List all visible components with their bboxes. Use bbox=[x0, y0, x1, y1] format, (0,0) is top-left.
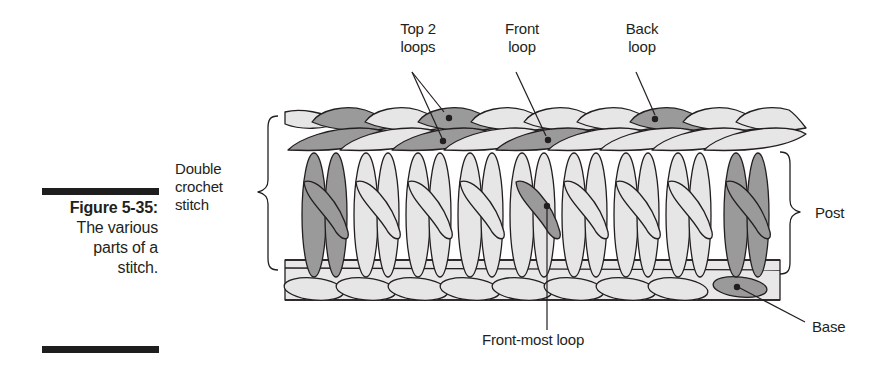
label-line: loop bbox=[612, 38, 672, 56]
label-line: Front bbox=[492, 20, 552, 38]
label-post: Post bbox=[815, 204, 844, 222]
label-double-crochet-stitch: Double crochet stitch bbox=[175, 160, 255, 214]
label-top-two-loops: Top 2 loops bbox=[388, 20, 448, 56]
stitch-posts bbox=[302, 153, 770, 277]
right-brace bbox=[780, 152, 800, 274]
top-chain-back bbox=[285, 108, 806, 131]
label-back-loop: Back loop bbox=[612, 20, 672, 56]
label-line: Double bbox=[175, 160, 255, 178]
label-front-loop: Front loop bbox=[492, 20, 552, 56]
label-line: Top 2 bbox=[388, 20, 448, 38]
label-line: loop bbox=[492, 38, 552, 56]
label-line: loops bbox=[388, 38, 448, 56]
label-front-most-loop: Front-most loop bbox=[482, 331, 584, 349]
label-line: Back bbox=[612, 20, 672, 38]
label-line: stitch bbox=[175, 196, 255, 214]
left-brace bbox=[258, 116, 278, 270]
label-line: crochet bbox=[175, 178, 255, 196]
label-base: Base bbox=[812, 318, 845, 336]
